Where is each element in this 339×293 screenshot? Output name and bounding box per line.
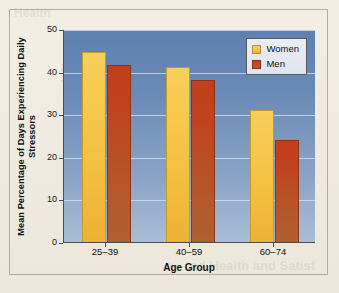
bar-men-3 (275, 140, 299, 242)
legend-label-women: Women (266, 44, 299, 54)
y-axis-title: Mean Percentage of Days Experiencing Dai… (10, 30, 44, 243)
x-tick-label: 60–74 (238, 246, 308, 257)
y-tick-label: 40 (29, 67, 57, 77)
gridline (64, 30, 315, 31)
y-tick-label: 10 (29, 194, 57, 204)
women-swatch-icon (252, 45, 261, 54)
bar-women-2 (166, 67, 190, 242)
y-tick-label: 30 (29, 109, 57, 119)
x-tick-label: 25–39 (70, 246, 140, 257)
x-tick-label: 40–59 (154, 246, 224, 257)
legend-item-men: Men (252, 58, 299, 70)
plot-area: Women Men (63, 30, 315, 243)
bar-women-3 (250, 110, 274, 242)
x-tick-mark (105, 243, 106, 247)
chart-legend: Women Men (246, 38, 307, 75)
y-tick-mark (59, 243, 63, 244)
legend-item-women: Women (252, 43, 299, 55)
x-axis-title: Age Group (63, 262, 315, 273)
x-tick-mark (189, 243, 190, 247)
legend-label-men: Men (266, 59, 284, 69)
bar-men-1 (107, 65, 131, 242)
y-tick-label: 0 (29, 237, 57, 247)
bar-women-1 (82, 52, 106, 242)
x-tick-mark (273, 243, 274, 247)
y-tick-label: 20 (29, 152, 57, 162)
y-tick-label: 50 (29, 24, 57, 34)
bar-men-2 (191, 80, 215, 242)
men-swatch-icon (252, 60, 261, 69)
figure-container: Health aic Temp od Health and Satisf Mea… (0, 0, 339, 293)
